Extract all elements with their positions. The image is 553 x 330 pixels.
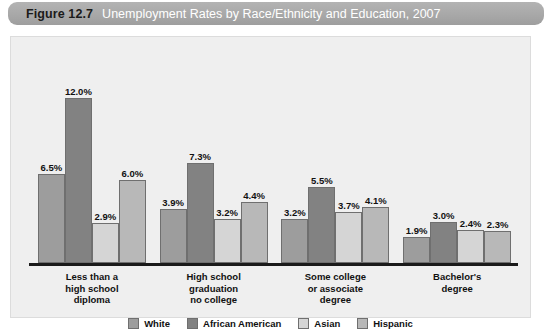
bar-value-label: 2.9% xyxy=(95,212,117,222)
bar[interactable] xyxy=(92,223,119,263)
bar-group: 1.9%3.0%2.4%2.3% xyxy=(403,45,511,263)
bar-value-label: 3.2% xyxy=(284,208,306,218)
bar-value-label: 3.2% xyxy=(216,208,238,218)
bar-item[interactable]: 6.5% xyxy=(38,45,65,263)
bar-value-label: 3.9% xyxy=(162,198,184,208)
bar-item[interactable]: 4.4% xyxy=(241,45,268,263)
bar-item[interactable]: 2.9% xyxy=(92,45,119,263)
bar-value-label: 12.0% xyxy=(65,87,92,97)
bar[interactable] xyxy=(214,219,241,263)
bar-group: 3.2%5.5%3.7%4.1% xyxy=(281,45,389,263)
category-label-line: Bachelor's xyxy=(385,271,529,283)
bar-group: 3.9%7.3%3.2%4.4% xyxy=(160,45,268,263)
bar-item[interactable]: 6.0% xyxy=(119,45,146,263)
legend-label: Asian xyxy=(314,318,340,329)
chart-legend: WhiteAfrican AmericanAsianHispanic xyxy=(11,318,530,329)
bar-item[interactable]: 2.4% xyxy=(457,45,484,263)
figure-title-bar: Figure 12.7 Unemployment Rates by Race/E… xyxy=(8,2,544,25)
x-axis-line xyxy=(29,263,518,266)
legend-label: White xyxy=(144,318,170,329)
category-label-line: degree xyxy=(385,283,529,295)
legend-item[interactable]: African American xyxy=(187,318,281,329)
category-axis-labels: Less than ahigh schooldiplomaHigh school… xyxy=(31,271,516,313)
bar[interactable] xyxy=(38,174,65,263)
bar-item[interactable]: 5.5% xyxy=(308,45,335,263)
bar-value-label: 5.5% xyxy=(311,176,333,186)
bar-value-label: 7.3% xyxy=(189,152,211,162)
bar[interactable] xyxy=(187,163,214,263)
figure-number: Figure 12.7 xyxy=(26,7,93,21)
legend-label: Hispanic xyxy=(373,318,413,329)
bar-item[interactable]: 2.3% xyxy=(484,45,511,263)
bar[interactable] xyxy=(335,212,362,263)
legend-item[interactable]: White xyxy=(128,318,170,329)
legend-swatch-icon xyxy=(298,318,309,329)
bar[interactable] xyxy=(308,187,335,263)
legend-item[interactable]: Hispanic xyxy=(357,318,413,329)
bar[interactable] xyxy=(281,219,308,263)
bar[interactable] xyxy=(457,230,484,263)
category-label: Bachelor'sdegree xyxy=(385,271,529,294)
bar[interactable] xyxy=(119,180,146,263)
bar-value-label: 3.7% xyxy=(338,201,360,211)
legend-label: African American xyxy=(203,318,281,329)
bar-item[interactable]: 3.2% xyxy=(281,45,308,263)
bar-item[interactable]: 3.0% xyxy=(430,45,457,263)
legend-swatch-icon xyxy=(187,318,198,329)
bar-value-label: 4.4% xyxy=(243,191,265,201)
bar[interactable] xyxy=(160,209,187,263)
bar-value-label: 3.0% xyxy=(433,211,455,221)
bar[interactable] xyxy=(241,202,268,263)
legend-swatch-icon xyxy=(357,318,368,329)
bar[interactable] xyxy=(362,207,389,263)
bar[interactable] xyxy=(403,237,430,263)
bar-value-label: 1.9% xyxy=(406,226,428,236)
category-label-line: degree xyxy=(263,294,407,306)
bar-value-label: 6.0% xyxy=(122,169,144,179)
bar-value-label: 4.1% xyxy=(365,196,387,206)
legend-item[interactable]: Asian xyxy=(298,318,340,329)
bar-item[interactable]: 3.9% xyxy=(160,45,187,263)
legend-swatch-icon xyxy=(128,318,139,329)
bar-item[interactable]: 7.3% xyxy=(187,45,214,263)
plot-area: 6.5%12.0%2.9%6.0%3.9%7.3%3.2%4.4%3.2%5.5… xyxy=(31,45,516,263)
bar-value-label: 2.4% xyxy=(460,219,482,229)
bar[interactable] xyxy=(484,231,511,263)
bar-value-label: 2.3% xyxy=(487,220,509,230)
bar-item[interactable]: 12.0% xyxy=(65,45,92,263)
chart-panel: 6.5%12.0%2.9%6.0%3.9%7.3%3.2%4.4%3.2%5.5… xyxy=(10,36,531,318)
figure-title-text: Unemployment Rates by Race/Ethnicity and… xyxy=(102,7,440,21)
bar[interactable] xyxy=(65,98,92,263)
bar-item[interactable]: 3.2% xyxy=(214,45,241,263)
bar[interactable] xyxy=(430,222,457,263)
bar-item[interactable]: 1.9% xyxy=(403,45,430,263)
bar-item[interactable]: 4.1% xyxy=(362,45,389,263)
bar-group: 6.5%12.0%2.9%6.0% xyxy=(38,45,146,263)
bar-item[interactable]: 3.7% xyxy=(335,45,362,263)
bar-value-label: 6.5% xyxy=(41,163,63,173)
